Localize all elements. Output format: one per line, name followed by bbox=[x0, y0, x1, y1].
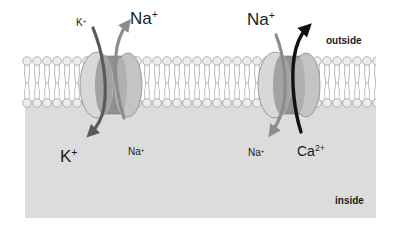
label-na-bottom-left: Na+ bbox=[128, 147, 144, 157]
lipid-bilayer bbox=[22, 56, 376, 108]
label-ca-bottom: Ca2+ bbox=[297, 144, 325, 158]
inside-region bbox=[25, 100, 376, 218]
label-outside: outside bbox=[326, 36, 362, 46]
label-inside: inside bbox=[335, 196, 364, 206]
label-k-top: K+ bbox=[76, 18, 86, 28]
label-k-bottom: K+ bbox=[60, 148, 78, 165]
label-na-top-right: Na+ bbox=[247, 11, 275, 28]
label-na-top-left: Na+ bbox=[130, 10, 158, 27]
label-na-bottom-right: Na+ bbox=[248, 148, 264, 158]
